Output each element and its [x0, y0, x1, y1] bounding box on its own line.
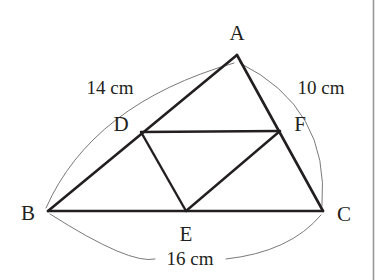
- segment-df-line: [141, 131, 280, 132]
- vertex-label-b: B: [21, 201, 35, 225]
- vertex-label-f: F: [294, 112, 306, 136]
- dimension-arc-bc-right: [226, 215, 321, 259]
- triangle-diagram-canvas: A B C D E F 14 cm 10 cm 16 cm: [0, 0, 386, 280]
- dimension-arc-bc-left: [50, 214, 155, 260]
- vertex-label-c: C: [337, 202, 351, 226]
- geometry-figure: A B C D E F 14 cm 10 cm 16 cm: [0, 0, 386, 280]
- vertex-label-d: D: [113, 112, 128, 136]
- dimension-label-ab: 14 cm: [87, 77, 134, 98]
- dimension-label-bc: 16 cm: [167, 248, 214, 269]
- vertex-label-a: A: [229, 21, 245, 45]
- dimension-label-ac: 10 cm: [298, 77, 345, 98]
- vertex-label-e: E: [180, 222, 193, 246]
- segment-ef-line: [186, 131, 280, 211]
- segment-de-line: [141, 132, 186, 211]
